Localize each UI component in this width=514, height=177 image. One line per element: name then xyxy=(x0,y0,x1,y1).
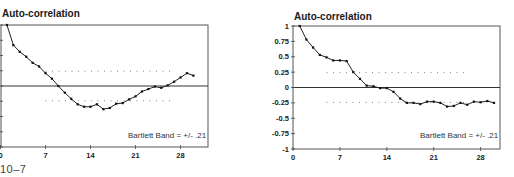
data-point-marker xyxy=(379,87,381,89)
y-tick-label: -1 xyxy=(282,145,289,154)
data-point-marker xyxy=(115,103,117,105)
y-tick-label: 0 xyxy=(285,83,289,92)
data-point-marker xyxy=(57,85,59,87)
data-point-marker xyxy=(12,44,14,46)
data-point-marker xyxy=(372,85,374,87)
data-point-marker xyxy=(32,62,34,64)
data-point-marker xyxy=(413,102,415,104)
data-point-marker xyxy=(459,102,461,104)
data-point-marker xyxy=(102,108,104,110)
data-point-marker xyxy=(332,59,334,61)
y-tick-label: 1 xyxy=(285,22,289,31)
data-point-marker xyxy=(466,104,468,106)
data-point-marker xyxy=(147,88,149,90)
data-point-marker xyxy=(399,97,401,99)
data-point-marker xyxy=(406,102,408,104)
data-point-marker xyxy=(493,102,495,104)
data-point-marker xyxy=(160,87,162,89)
data-point-marker xyxy=(83,106,85,108)
data-point-marker xyxy=(392,91,394,93)
x-tick-label: 7 xyxy=(43,151,47,160)
data-point-marker xyxy=(325,56,327,58)
x-tick-label: 14 xyxy=(86,151,95,160)
right-chart-title: Auto-correlation xyxy=(294,11,372,22)
data-point-marker xyxy=(299,25,301,27)
x-tick-label: 0 xyxy=(0,151,3,160)
y-tick-label: 0.25 xyxy=(274,68,289,77)
data-point-marker xyxy=(433,101,435,103)
data-point-marker xyxy=(122,102,124,104)
data-point-marker xyxy=(439,102,441,104)
data-point-marker xyxy=(192,75,194,77)
x-tick-label: 28 xyxy=(476,153,484,160)
y-tick-label: -0.25 xyxy=(272,98,289,107)
data-point-marker xyxy=(154,86,156,88)
data-point-marker xyxy=(96,103,98,105)
y-tick-label: -0.5 xyxy=(276,114,289,123)
data-point-marker xyxy=(128,98,130,100)
data-point-marker xyxy=(359,78,361,80)
x-tick-label: 28 xyxy=(176,151,184,160)
data-point-marker xyxy=(339,59,341,61)
data-point-marker xyxy=(64,92,66,94)
data-point-marker xyxy=(446,105,448,107)
data-point-marker xyxy=(38,65,40,67)
data-point-marker xyxy=(19,51,21,53)
data-point-marker xyxy=(386,87,388,89)
data-point-marker xyxy=(366,85,368,87)
x-tick-label: 0 xyxy=(291,153,295,160)
data-point-marker xyxy=(473,101,475,103)
left-chart-title: Auto-correlation xyxy=(2,8,80,19)
data-point-marker xyxy=(44,72,46,74)
x-tick-label: 14 xyxy=(383,153,392,160)
data-point-marker xyxy=(453,105,455,107)
data-point-marker xyxy=(6,24,8,26)
data-point-marker xyxy=(173,81,175,83)
data-point-marker xyxy=(419,103,421,105)
data-point-marker xyxy=(77,103,79,105)
data-point-marker xyxy=(134,95,136,97)
data-point-marker xyxy=(186,72,188,74)
data-point-marker xyxy=(312,46,314,48)
data-point-marker xyxy=(167,84,169,86)
data-point-marker xyxy=(486,100,488,102)
data-point-marker xyxy=(141,90,143,92)
data-point-marker xyxy=(319,54,321,56)
data-point-marker xyxy=(426,101,428,103)
data-point-marker xyxy=(352,71,354,73)
x-tick-label: 7 xyxy=(338,153,342,160)
data-point-marker xyxy=(25,56,27,58)
data-point-marker xyxy=(70,98,72,100)
autocorrelation-line xyxy=(7,25,193,109)
data-point-marker xyxy=(109,107,111,109)
left-chart: Auto-correlation 07142128 Bartlett Band … xyxy=(0,0,257,160)
y-tick-label: 0.75 xyxy=(274,37,289,46)
data-point-marker xyxy=(305,38,307,40)
data-point-marker xyxy=(89,106,91,108)
x-tick-label: 21 xyxy=(430,153,438,160)
right-chart: Auto-correlation 10.750.50.250-0.25-0.5-… xyxy=(257,0,514,160)
left-band-label: Bartlett Band = +/- .21 xyxy=(128,131,206,140)
data-point-marker xyxy=(179,76,181,78)
data-point-marker xyxy=(480,101,482,103)
data-point-marker xyxy=(51,78,53,80)
x-tick-label: 21 xyxy=(131,151,139,160)
y-tick-label: -0.75 xyxy=(272,129,289,138)
autocorrelation-line xyxy=(300,26,494,107)
data-point-marker xyxy=(346,60,348,62)
right-band-label: Bartlett Band = +/- .21 xyxy=(420,131,498,140)
y-tick-label: 0.5 xyxy=(279,52,289,61)
figure-caption: 10–7 xyxy=(0,163,26,175)
